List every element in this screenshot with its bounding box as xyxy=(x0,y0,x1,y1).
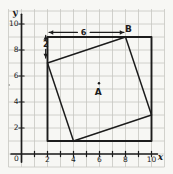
point-A-dot xyxy=(98,82,101,85)
x-tick-label: 10 xyxy=(147,155,157,164)
origin-label: 0 xyxy=(14,154,19,163)
y-tick-label: 2 xyxy=(14,123,19,132)
x-tick-label: 4 xyxy=(71,155,76,164)
x-tick-label: 8 xyxy=(123,155,128,164)
figure: 2468102468100xy62AB xyxy=(0,0,173,174)
x-tick-label: 6 xyxy=(97,155,102,164)
dimension-label-6: 6 xyxy=(80,28,87,37)
y-tick-label: 10 xyxy=(9,19,19,28)
stray-mark xyxy=(9,84,11,86)
x-axis-label: x xyxy=(157,152,164,162)
point-A-label: A xyxy=(95,87,102,97)
y-tick-label: 4 xyxy=(14,97,19,106)
x-tick-label: 2 xyxy=(45,155,50,164)
y-tick-label: 8 xyxy=(14,45,19,54)
figure-svg: 2468102468100xy62AB xyxy=(0,0,173,174)
y-tick-label: 6 xyxy=(14,71,19,80)
dimension-label-2: 2 xyxy=(43,40,49,49)
point-B-label: B xyxy=(125,24,132,34)
